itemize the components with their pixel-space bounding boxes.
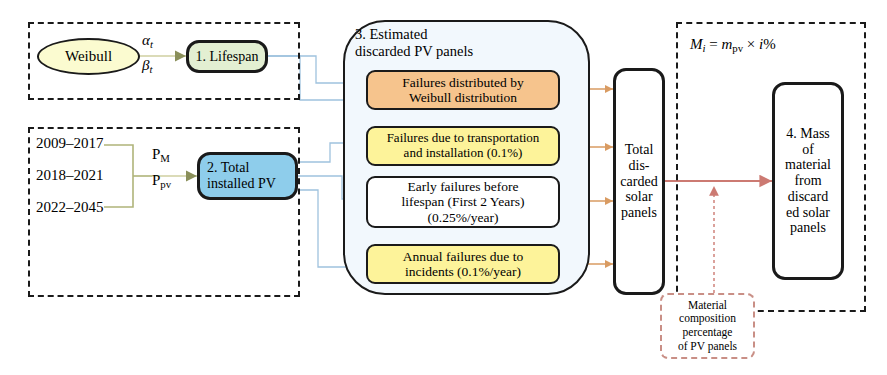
node-material-composition[interactable]: Material composition percentage of PV pa… — [660, 293, 755, 359]
edge-label-alpha-t: αt — [142, 32, 153, 50]
year-range-2: 2018–2021 — [36, 167, 104, 184]
node-weibull[interactable]: Weibull — [37, 38, 140, 75]
estimated-title-line1: 3. Estimated — [355, 26, 580, 43]
mass-material-line1: 4. Mass — [786, 126, 830, 142]
node-mass-of-material[interactable]: 4. Mass of material from discard ed sola… — [772, 82, 844, 280]
mass-material-line3: material — [785, 157, 831, 173]
mass-material-line7: panels — [790, 220, 826, 236]
edge-label-p-m: PM — [152, 146, 170, 164]
total-discarded-line5: panels — [621, 205, 657, 221]
total-discarded-line4: solar — [625, 189, 652, 205]
formula-mass: Mi = mpv × i% — [690, 36, 776, 54]
estimated-title-line2: discarded PV panels — [355, 43, 580, 60]
mass-material-line5: discard — [788, 189, 828, 205]
failures-early-line3: (0.25%/year) — [428, 210, 499, 225]
node-lifespan[interactable]: 1. Lifespan — [186, 40, 268, 73]
node-failures-incidents[interactable]: Annual failures due to incidents (0.1%/y… — [366, 244, 560, 284]
failures-early-line2: lifespan (First 2 Years) — [402, 194, 525, 209]
failures-incidents-line1: Annual failures due to — [403, 249, 523, 264]
failures-weibull-line2: Weibull distribution — [409, 90, 517, 105]
failures-transportation-line2: and installation (0.1%) — [404, 146, 523, 161]
year-range-3: 2022–2045 — [36, 199, 104, 216]
failures-transportation-line1: Failures due to transportation — [387, 131, 540, 146]
node-failures-weibull[interactable]: Failures distributed by Weibull distribu… — [366, 70, 560, 110]
mass-material-line2: of — [802, 142, 814, 158]
material-composition-line1: Material — [688, 299, 727, 313]
failures-incidents-line2: incidents (0.1%/year) — [405, 264, 521, 279]
edge-label-p-pv: Ppv — [152, 172, 171, 190]
edge-label-beta-t: βt — [142, 57, 152, 75]
total-discarded-line1: Total — [625, 142, 654, 158]
failures-weibull-line1: Failures distributed by — [402, 75, 524, 90]
year-range-1: 2009–2017 — [36, 135, 104, 152]
material-composition-line3: percentage — [683, 326, 733, 340]
failures-early-line1: Early failures before — [408, 179, 519, 194]
mass-material-line4: from — [794, 173, 821, 189]
node-total-discarded-solar-panels[interactable]: Total dis- carded solar panels — [613, 68, 665, 295]
node-lifespan-label: 1. Lifespan — [196, 49, 259, 65]
node-total-installed-pv-line1: 2. Total — [207, 160, 249, 176]
node-weibull-label: Weibull — [65, 48, 112, 65]
container-estimated-discarded-title: 3. Estimated discarded PV panels — [355, 26, 580, 61]
node-failures-transportation[interactable]: Failures due to transportation and insta… — [366, 126, 560, 166]
material-composition-line2: composition — [679, 312, 736, 326]
diagram-canvas: Weibull αt βt 1. Lifespan 2009–2017 2018… — [0, 0, 887, 375]
material-composition-line4: of PV panels — [678, 340, 737, 354]
node-failures-early[interactable]: Early failures before lifespan (First 2 … — [366, 176, 560, 228]
total-discarded-line2: dis- — [629, 158, 650, 174]
node-total-installed-pv[interactable]: 2. Total installed PV — [197, 152, 298, 200]
total-discarded-line3: carded — [620, 174, 657, 190]
mass-material-line6: ed solar — [786, 205, 830, 221]
node-total-installed-pv-line2: installed PV — [207, 176, 276, 192]
